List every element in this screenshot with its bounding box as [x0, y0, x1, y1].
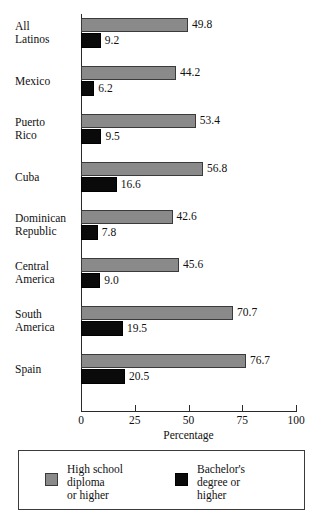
bar-high-school — [81, 66, 176, 80]
bar-bachelors — [81, 369, 125, 384]
bar-value-label: 9.5 — [105, 131, 119, 143]
bar-chart-plot-area: Percentage All Latinos49.89.2Mexico44.26… — [0, 0, 320, 440]
bar-value-label: 53.4 — [200, 115, 220, 127]
bar-value-label: 16.6 — [121, 179, 141, 191]
bar-bachelors — [81, 225, 98, 240]
bar-bachelors — [81, 321, 123, 336]
bar-value-label: 45.6 — [183, 259, 203, 271]
category-label: South America — [15, 308, 79, 333]
x-axis-tick — [189, 405, 190, 412]
black-swatch-icon — [175, 473, 188, 486]
x-axis-tick-label: 100 — [276, 414, 316, 426]
bar-value-label: 20.5 — [129, 371, 149, 383]
category-label: Mexico — [15, 75, 79, 88]
bar-high-school — [81, 354, 246, 368]
x-axis-tick-label: 0 — [61, 414, 101, 426]
bar-high-school — [81, 18, 188, 32]
bar-bachelors — [81, 33, 101, 48]
bar-value-label: 7.8 — [102, 227, 116, 239]
x-axis-tick-label: 25 — [115, 414, 155, 426]
category-label: Central America — [15, 260, 79, 285]
bar-value-label: 6.2 — [98, 83, 112, 95]
bar-bachelors — [81, 273, 100, 288]
bar-high-school — [81, 258, 179, 272]
bar-value-label: 49.8 — [192, 19, 212, 31]
x-axis-tick-label: 75 — [222, 414, 262, 426]
legend-label-bachelors: Bachelor's degree or higher — [197, 463, 245, 501]
bar-bachelors — [81, 129, 101, 144]
category-label: Dominican Republic — [15, 212, 79, 237]
bar-high-school — [81, 114, 196, 128]
bar-value-label: 44.2 — [180, 67, 200, 79]
bar-value-label: 76.7 — [250, 355, 270, 367]
x-axis-title: Percentage — [81, 429, 296, 441]
x-axis-tick-label: 50 — [169, 414, 209, 426]
legend-label-high-school: High school diploma or higher — [67, 463, 123, 501]
bar-high-school — [81, 306, 233, 320]
bar-bachelors — [81, 81, 94, 96]
bar-high-school — [81, 162, 203, 176]
category-label: Spain — [15, 363, 79, 376]
x-axis-tick — [242, 405, 243, 412]
chart-legend: High school diploma or higher Bachelor's… — [18, 450, 305, 510]
bar-value-label: 70.7 — [237, 307, 257, 319]
category-label: Cuba — [15, 171, 79, 184]
legend-entry-bachelors: Bachelor's degree or higher — [175, 463, 245, 501]
x-axis-tick — [296, 405, 297, 412]
category-label: All Latinos — [15, 20, 79, 45]
bar-bachelors — [81, 177, 117, 192]
bar-value-label: 56.8 — [207, 163, 227, 175]
bar-value-label: 19.5 — [127, 323, 147, 335]
x-axis-tick — [135, 405, 136, 412]
bar-value-label: 42.6 — [177, 211, 197, 223]
category-label: Puerto Rico — [15, 116, 79, 141]
x-axis-tick — [81, 405, 82, 412]
gray-swatch-icon — [45, 473, 58, 486]
legend-entry-high-school: High school diploma or higher — [45, 463, 123, 501]
bar-high-school — [81, 210, 173, 224]
bar-value-label: 9.0 — [104, 275, 118, 287]
bar-value-label: 9.2 — [105, 35, 119, 47]
